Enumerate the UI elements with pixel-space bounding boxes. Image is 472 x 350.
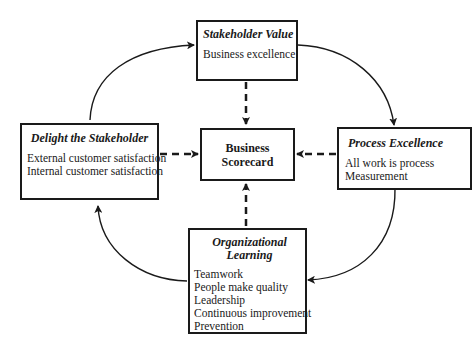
box-item: Continuous improvement [194, 307, 305, 320]
scorecard-title-line2: Scorecard [202, 155, 293, 169]
box-item: People make quality [194, 281, 305, 294]
organizational-learning-box: Organizational Learning Teamwork People … [188, 228, 307, 334]
business-scorecard-box: Business Scorecard [200, 128, 295, 181]
arrow-value-to-process [298, 45, 394, 125]
process-excellence-box: Process Excellence All work is process M… [337, 127, 472, 190]
arrow-process-to-learning [308, 188, 395, 280]
arrow-delight-to-value [90, 45, 194, 120]
box-title: Process Excellence [348, 137, 470, 150]
arrow-learning-to-delight [98, 206, 187, 281]
box-item: Teamwork [194, 268, 305, 281]
box-item: Measurement [345, 170, 470, 183]
stakeholder-value-box: Stakeholder Value Business excellence [196, 20, 298, 81]
box-title: Stakeholder Value [203, 28, 296, 41]
box-item: Business excellence [203, 48, 296, 61]
delight-stakeholder-box: Delight the Stakeholder External custome… [20, 123, 159, 200]
box-title: Delight the Stakeholder [27, 132, 152, 145]
box-title-line2: Learning [194, 249, 305, 262]
box-item: All work is process [345, 157, 470, 170]
scorecard-title-line1: Business [202, 141, 293, 155]
box-item: Internal customer satisfaction [27, 165, 157, 178]
box-item: Prevention [194, 320, 305, 333]
box-item: Leadership [194, 294, 305, 307]
box-item: External customer satisfaction [27, 152, 157, 165]
